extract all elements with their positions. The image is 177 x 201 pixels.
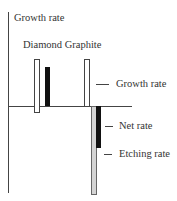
y-axis-label: Growth rate — [14, 12, 64, 24]
x-axis — [8, 106, 132, 107]
etching-rate-leader — [104, 154, 112, 155]
diamond-growth-bar — [34, 59, 40, 113]
etching-rate-label: Etching rate — [119, 148, 170, 160]
group-labels: Diamond Graphite — [23, 39, 101, 51]
graphite-net-bar — [96, 106, 101, 148]
net-rate-leader — [105, 126, 113, 127]
diamond-net-bar — [45, 67, 50, 106]
growth-rate-leader — [96, 84, 109, 85]
graphite-growth-bar — [84, 59, 90, 107]
growth-rate-label: Growth rate — [116, 78, 166, 90]
y-axis — [8, 12, 9, 193]
net-rate-label: Net rate — [119, 120, 153, 132]
